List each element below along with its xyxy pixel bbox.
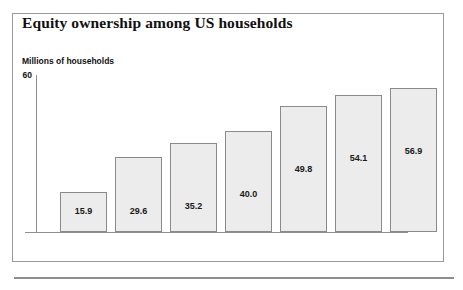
bar-value-label: 54.1: [335, 153, 382, 163]
bar-value-label: 40.0: [225, 189, 272, 199]
x-axis-baseline: [25, 232, 408, 233]
bar-value-label: 29.6: [115, 206, 162, 216]
bar-value-label: 35.2: [170, 201, 217, 211]
bar[interactable]: [390, 88, 437, 232]
bar[interactable]: [335, 95, 382, 232]
y-axis-line: [36, 75, 37, 232]
plot-area: 60 15.9 1983 29.6 1989 35.2 1992 40.0 19…: [0, 0, 432, 249]
bar[interactable]: [225, 131, 272, 232]
bar-value-label: 49.8: [280, 164, 327, 174]
bar[interactable]: [170, 143, 217, 232]
footer-rule: [14, 277, 454, 279]
bar-value-label: 56.9: [390, 146, 437, 156]
y-axis-tick-label: 60: [14, 70, 32, 80]
bar-value-label: 15.9: [60, 206, 107, 216]
bar[interactable]: [115, 157, 162, 232]
chart-figure: Equity ownership among US households Mil…: [0, 0, 463, 290]
